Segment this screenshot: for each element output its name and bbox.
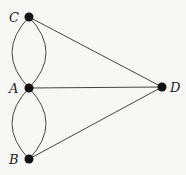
edge-b-d [29, 87, 162, 159]
label-a: A [8, 81, 18, 96]
node-c [25, 13, 34, 22]
label-d: D [169, 80, 181, 95]
label-c: C [9, 10, 19, 25]
edge-c-a-right [29, 17, 46, 88]
edge-c-d [29, 17, 162, 87]
edge-a-b-right [29, 88, 46, 159]
node-b [25, 155, 34, 164]
edge-c-a-left [12, 17, 29, 88]
node-d [158, 83, 167, 92]
edge-a-b-left [12, 88, 29, 159]
node-a [25, 84, 34, 93]
edge-a-d [29, 87, 162, 88]
label-b: B [8, 152, 19, 167]
graph-svg: C A B D [0, 0, 186, 175]
graph-diagram: C A B D [0, 0, 186, 175]
